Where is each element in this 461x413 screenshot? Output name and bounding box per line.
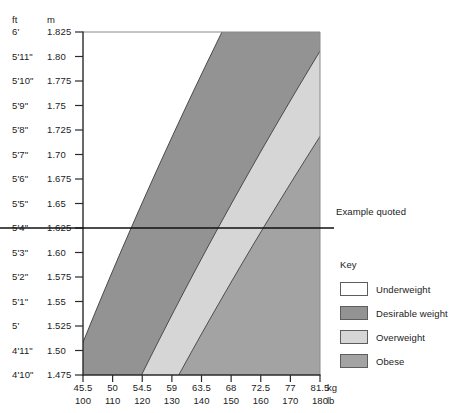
legend-title: Key <box>340 259 458 270</box>
legend-item: Overweight <box>340 326 458 348</box>
y-axis-ticks <box>75 32 83 375</box>
legend-items: UnderweightDesirable weightOverweightObe… <box>340 278 458 372</box>
legend-item: Desirable weight <box>340 302 458 324</box>
legend-swatch <box>340 306 368 320</box>
legend-swatch <box>340 282 368 296</box>
bmi-chart: ft m 6'1.8255'11"1.805'10"1.7755'9"1.755… <box>0 0 461 413</box>
legend: Key UnderweightDesirable weightOverweigh… <box>340 259 458 374</box>
legend-swatch <box>340 354 368 368</box>
legend-item: Obese <box>340 350 458 372</box>
legend-label: Desirable weight <box>376 308 448 319</box>
x-axis-unit-kg: kg <box>327 381 337 394</box>
legend-label: Overweight <box>376 332 425 343</box>
x-axis-unit-lb: lb <box>327 394 334 407</box>
legend-swatch <box>340 330 368 344</box>
legend-label: Obese <box>376 356 405 367</box>
example-quoted-label: Example quoted <box>336 206 406 217</box>
legend-item: Underweight <box>340 278 458 300</box>
legend-label: Underweight <box>376 284 430 295</box>
